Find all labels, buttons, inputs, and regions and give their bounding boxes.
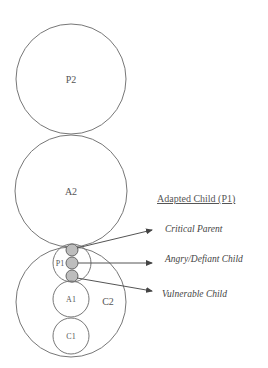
label-p1: P1 bbox=[56, 259, 64, 268]
vulnerable-child-circle bbox=[66, 270, 78, 282]
arrow-critical-parent bbox=[77, 230, 152, 248]
label-p2: P2 bbox=[66, 74, 77, 85]
label-c1: C1 bbox=[66, 332, 75, 341]
arrow-vulnerable-child bbox=[77, 278, 152, 291]
ego-state-diagram: P2 A2 C2 P1 A1 C1 Adapted Child (P1) Cri… bbox=[0, 0, 268, 368]
legend-critical-parent: Critical Parent bbox=[165, 224, 223, 234]
legend-angry-defiant-child: Angry/Defiant Child bbox=[164, 254, 243, 264]
circle-a2: A2 bbox=[15, 135, 127, 247]
critical-parent-circle bbox=[66, 244, 78, 256]
label-a2: A2 bbox=[65, 186, 77, 197]
legend-vulnerable-child: Vulnerable Child bbox=[162, 289, 227, 299]
circle-a1: A1 bbox=[53, 281, 89, 317]
circle-p2: P2 bbox=[16, 24, 126, 134]
legend-title: Adapted Child (P1) bbox=[157, 193, 235, 205]
label-a1: A1 bbox=[66, 295, 76, 304]
label-c2: C2 bbox=[102, 296, 114, 307]
circle-c1: C1 bbox=[53, 318, 89, 354]
angry-defiant-child-circle bbox=[66, 257, 78, 269]
